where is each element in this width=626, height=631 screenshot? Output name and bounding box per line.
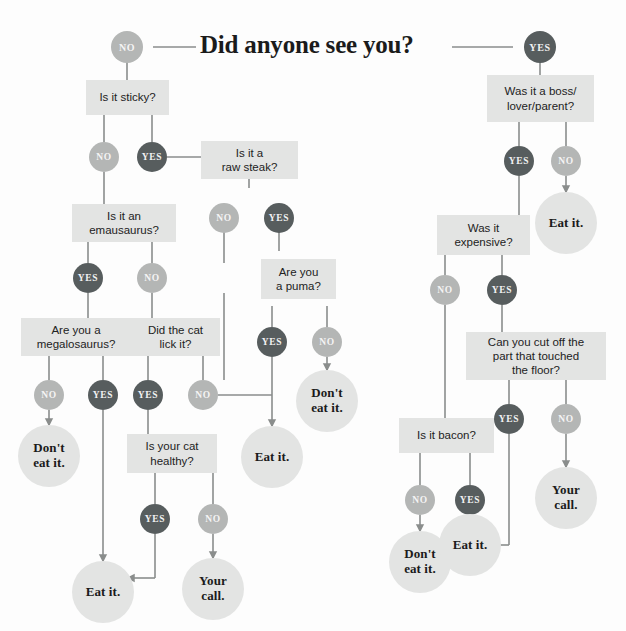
terminal-your-call-right: Your call. xyxy=(535,467,597,529)
node-megalosaurus-no[interactable]: NO xyxy=(34,380,64,410)
node-bacon-yes[interactable]: YES xyxy=(455,485,485,515)
question-line-2: expensive? xyxy=(454,236,512,248)
terminal-text: Eat it. xyxy=(255,450,290,465)
node-rawsteak-no[interactable]: NO xyxy=(209,203,239,233)
page-title: Did anyone see you? xyxy=(200,31,414,59)
node-cutoff-no[interactable]: NO xyxy=(551,404,581,434)
terminal-text: Your call. xyxy=(552,483,580,512)
question-text: Is your cat healthy? xyxy=(145,439,198,467)
node-label: YES xyxy=(93,390,113,400)
terminal-line-1: Don't xyxy=(33,440,65,455)
terminal-eat-it-right: Eat it. xyxy=(439,514,501,576)
question-line-3: the floor? xyxy=(512,364,560,376)
question-line-1: Are you a xyxy=(51,324,100,336)
terminal-line-2: call. xyxy=(201,588,224,603)
node-label: NO xyxy=(319,337,334,347)
terminal-text: Your call. xyxy=(199,574,227,603)
node-cutoff-yes[interactable]: YES xyxy=(494,404,524,434)
question-are-you-a-puma: Are you a puma? xyxy=(261,259,336,299)
terminal-line-2: eat it. xyxy=(404,561,436,576)
node-puma-no[interactable]: NO xyxy=(312,327,342,357)
node-root-no[interactable]: NO xyxy=(111,31,143,63)
question-text: Was it a boss/ lover/parent? xyxy=(505,84,577,112)
node-boss-no[interactable]: NO xyxy=(551,146,581,176)
terminal-line-2: eat it. xyxy=(311,400,343,415)
question-is-it-bacon: Is it bacon? xyxy=(399,418,494,453)
question-can-you-cut-off-the-part: Can you cut off the part that touched th… xyxy=(466,332,606,380)
question-line-2: raw steak? xyxy=(222,161,278,173)
question-line-2: lover/parent? xyxy=(507,100,574,112)
node-label: NO xyxy=(144,273,159,283)
node-rawsteak-yes[interactable]: YES xyxy=(264,203,294,233)
terminal-text: Don't eat it. xyxy=(33,441,65,470)
node-expensive-yes[interactable]: YES xyxy=(487,275,517,305)
node-label: NO xyxy=(195,390,210,400)
question-line-1: Is it an xyxy=(107,210,141,222)
question-line-2: healthy? xyxy=(150,455,193,467)
node-emausaurus-yes[interactable]: YES xyxy=(73,263,103,293)
node-label: NO xyxy=(412,495,427,505)
node-label: YES xyxy=(460,495,480,505)
terminal-dont-eat-it-middle: Don't eat it. xyxy=(296,370,358,432)
terminal-line-1: Your xyxy=(552,482,580,497)
question-are-you-a-megalosaurus: Are you a megalosaurus? xyxy=(21,318,131,356)
node-label: YES xyxy=(78,273,98,283)
terminal-eat-it-bottom-left: Eat it. xyxy=(72,561,134,623)
node-emausaurus-no[interactable]: NO xyxy=(137,263,167,293)
node-label: NO xyxy=(205,514,220,524)
node-label: YES xyxy=(509,156,529,166)
question-line-1: Can you cut off the xyxy=(488,336,584,348)
node-label: NO xyxy=(41,390,56,400)
question-line-2: emausaurus? xyxy=(89,224,159,236)
node-megalosaurus-yes[interactable]: YES xyxy=(88,380,118,410)
question-text: Can you cut off the part that touched th… xyxy=(488,335,584,377)
question-is-it-sticky: Is it sticky? xyxy=(86,80,169,115)
question-text: Are you a megalosaurus? xyxy=(37,323,116,351)
question-text: Is it an emausaurus? xyxy=(89,209,159,237)
node-label: YES xyxy=(499,414,519,424)
node-label: YES xyxy=(145,514,165,524)
terminal-eat-it-middle: Eat it. xyxy=(241,426,303,488)
terminal-line-1: Don't xyxy=(311,385,343,400)
question-text: Was it expensive? xyxy=(454,221,512,249)
terminal-text: Don't eat it. xyxy=(311,386,343,415)
question-line-2: part that touched xyxy=(493,350,579,362)
terminal-text: Eat it. xyxy=(86,585,121,600)
node-cathealthy-yes[interactable]: YES xyxy=(140,504,170,534)
node-cathealthy-no[interactable]: NO xyxy=(198,504,228,534)
node-root-yes[interactable]: YES xyxy=(524,31,556,63)
node-sticky-no[interactable]: NO xyxy=(89,142,119,172)
node-bacon-no[interactable]: NO xyxy=(405,485,435,515)
terminal-line-2: eat it. xyxy=(33,455,65,470)
terminal-eat-it-top-right: Eat it. xyxy=(535,192,597,254)
question-is-your-cat-healthy: Is your cat healthy? xyxy=(127,434,217,473)
node-label: YES xyxy=(492,285,512,295)
terminal-text: Don't eat it. xyxy=(404,547,436,576)
node-label: YES xyxy=(142,152,162,162)
question-text: Are you a puma? xyxy=(276,265,321,293)
question-line-2: megalosaurus? xyxy=(37,338,116,350)
question-line-1: Did the cat xyxy=(148,324,203,336)
question-line-2: a puma? xyxy=(276,280,321,292)
terminal-line-2: call. xyxy=(554,497,577,512)
node-catlick-no[interactable]: NO xyxy=(188,380,218,410)
question-is-it-an-emausaurus: Is it an emausaurus? xyxy=(72,204,176,242)
node-label: YES xyxy=(262,337,282,347)
terminal-your-call-bottom-left: Your call. xyxy=(182,558,244,620)
node-label: YES xyxy=(269,213,289,223)
question-text: Did the cat lick it? xyxy=(148,323,203,351)
node-label: NO xyxy=(558,414,573,424)
terminal-text: Eat it. xyxy=(549,216,584,231)
node-boss-yes[interactable]: YES xyxy=(504,146,534,176)
node-label: YES xyxy=(138,390,158,400)
node-sticky-yes[interactable]: YES xyxy=(137,142,167,172)
node-expensive-no[interactable]: NO xyxy=(430,275,460,305)
node-label: NO xyxy=(558,156,573,166)
question-line-1: Is your cat xyxy=(145,440,198,452)
node-puma-yes[interactable]: YES xyxy=(257,327,287,357)
node-catlick-yes[interactable]: YES xyxy=(133,380,163,410)
flowchart-canvas: Did anyone see you? NO YES Is it sticky?… xyxy=(0,0,626,631)
question-line-1: Was it a boss/ xyxy=(505,85,577,97)
question-is-it-a-raw-steak: Is it a raw steak? xyxy=(201,141,298,179)
question-text: Is it a raw steak? xyxy=(222,146,278,174)
